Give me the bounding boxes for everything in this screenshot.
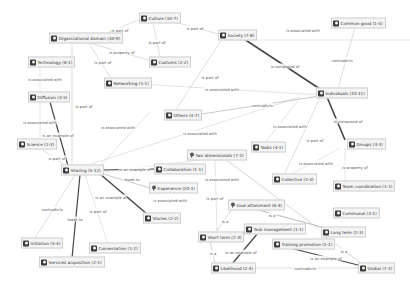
idea-icon bbox=[230, 202, 235, 208]
edge-label: is property of bbox=[342, 165, 368, 170]
node-label: Collaboration (1-1) bbox=[164, 167, 203, 172]
edge-label: leads to bbox=[67, 217, 83, 222]
node-label: Likelihood (2-4) bbox=[221, 266, 254, 271]
node-label: Technology (6-1) bbox=[38, 60, 73, 65]
node-training-promo[interactable]: Training promotion (1-1) bbox=[272, 239, 335, 250]
edge-label: contradicts bbox=[331, 58, 353, 63]
edge-label: is part of bbox=[201, 75, 219, 80]
node-culture[interactable]: Culture (10-7) bbox=[139, 13, 181, 24]
edge-label: contradicts bbox=[41, 207, 63, 212]
concept-icon bbox=[51, 35, 57, 41]
node-individuals[interactable]: Individuals (33-11) bbox=[316, 88, 368, 99]
node-label: Tasks (4-1) bbox=[261, 145, 284, 150]
node-label: Short term (2-3) bbox=[208, 235, 242, 240]
concept-icon bbox=[41, 259, 47, 265]
node-society[interactable]: Society (7-8) bbox=[218, 30, 257, 41]
concept-icon bbox=[141, 15, 147, 21]
edge-label: is property of bbox=[109, 50, 135, 55]
concept-icon bbox=[274, 176, 280, 182]
edge-label: is part of bbox=[306, 138, 324, 143]
edge-line[interactable] bbox=[238, 35, 320, 89]
edge-label: is associated with bbox=[153, 198, 188, 203]
edge-label: is associated with bbox=[28, 77, 63, 82]
node-org-domain[interactable]: Organizational domain (40-9) bbox=[49, 33, 123, 44]
node-conversation[interactable]: Conversation (1-2) bbox=[89, 243, 141, 254]
node-label: Common good (1-4) bbox=[341, 21, 383, 26]
node-science[interactable]: Science (2-3) bbox=[17, 139, 57, 150]
idea-icon bbox=[151, 185, 156, 191]
edge-label: is composed of bbox=[270, 64, 300, 69]
concept-icon bbox=[318, 90, 324, 96]
node-team-coord[interactable]: Team coordination (1-1) bbox=[333, 181, 395, 192]
concept-icon bbox=[19, 141, 25, 147]
concept-icon bbox=[30, 59, 36, 65]
concept-icon bbox=[349, 141, 355, 147]
node-common-good[interactable]: Common good (1-4) bbox=[331, 18, 386, 29]
node-others[interactable]: Others (4-7) bbox=[164, 110, 202, 121]
node-label: Diffusion (3-5) bbox=[38, 95, 68, 100]
idea-icon bbox=[189, 152, 194, 158]
node-two-dim[interactable]: Two dimensionals (7-2) bbox=[187, 150, 247, 161]
concept-icon bbox=[335, 183, 341, 189]
concept-icon bbox=[360, 265, 366, 271]
node-networking[interactable]: Networking (1-1) bbox=[104, 78, 152, 89]
node-tasks[interactable]: Tasks (4-1) bbox=[251, 142, 286, 153]
node-stories[interactable]: Stories (2-2) bbox=[143, 213, 181, 224]
node-collaboration[interactable]: Collaboration (1-1) bbox=[154, 164, 206, 175]
edge-line[interactable] bbox=[225, 159, 318, 228]
concept-icon bbox=[333, 20, 339, 26]
edge-label: is an example of bbox=[310, 256, 342, 261]
edge-label: is a bbox=[268, 213, 276, 218]
concept-icon bbox=[151, 59, 157, 65]
edge-label: is associated with bbox=[205, 177, 240, 182]
node-label: Collective (3-4) bbox=[282, 177, 314, 182]
node-label: Experience (20-1) bbox=[158, 186, 195, 191]
edge-label: is part of bbox=[148, 40, 166, 45]
node-label: Science (2-3) bbox=[27, 142, 55, 147]
node-global[interactable]: Global (7-3) bbox=[358, 263, 395, 274]
concept-graph-canvas[interactable]: is part ofis part ofis part ofis propert… bbox=[0, 0, 410, 290]
node-task-mgmt[interactable]: Task management (1-1) bbox=[244, 224, 306, 235]
concept-icon bbox=[335, 210, 341, 216]
edge-label: is associated with bbox=[183, 131, 218, 136]
edge-label: is part of bbox=[94, 60, 112, 65]
concept-icon bbox=[323, 229, 329, 235]
node-label: Customs (2-2) bbox=[159, 60, 189, 65]
edge-label: is associated with bbox=[205, 87, 240, 92]
concept-icon bbox=[23, 240, 29, 246]
node-label: Conversation (1-2) bbox=[99, 246, 138, 251]
node-diffusion[interactable]: Diffusion (3-5) bbox=[28, 92, 70, 103]
edge-label: is an example of bbox=[95, 195, 127, 200]
edge-label: contradicts bbox=[294, 266, 316, 271]
node-label: Others (4-7) bbox=[174, 113, 200, 118]
node-technology[interactable]: Technology (6-1) bbox=[28, 57, 75, 68]
edge-line[interactable] bbox=[100, 112, 150, 166]
node-collective[interactable]: Collective (3-4) bbox=[272, 174, 317, 185]
node-label: Task management (1-1) bbox=[254, 227, 304, 232]
node-goal-attain[interactable]: Goal attainment (6-4) bbox=[228, 200, 285, 211]
node-sharing[interactable]: Sharing (5-12) bbox=[61, 165, 104, 176]
concept-icon bbox=[220, 32, 226, 38]
node-long-term[interactable]: Long term (2-3) bbox=[321, 227, 366, 238]
node-communal[interactable]: Communal (3-1) bbox=[333, 208, 380, 219]
node-label: Society (7-8) bbox=[228, 33, 255, 38]
edge-label: is associated with bbox=[101, 125, 136, 130]
concept-icon bbox=[274, 241, 280, 247]
edge-label: is part of bbox=[75, 104, 93, 109]
node-label: Individuals (33-11) bbox=[326, 91, 365, 96]
node-label: Communal (3-1) bbox=[343, 211, 377, 216]
node-initiation[interactable]: Initiation (5-4) bbox=[21, 238, 63, 249]
node-services-acq[interactable]: Services acquisition (2-1) bbox=[39, 257, 105, 268]
node-experience[interactable]: Experience (20-1) bbox=[149, 183, 198, 194]
edge-label: is a bbox=[340, 249, 348, 254]
node-customs[interactable]: Customs (2-2) bbox=[149, 57, 191, 68]
concept-icon bbox=[213, 265, 219, 271]
node-short-term[interactable]: Short term (2-3) bbox=[198, 232, 244, 243]
node-label: Global (7-3) bbox=[368, 266, 393, 271]
node-groups[interactable]: Groups (3-3) bbox=[347, 139, 386, 150]
edge-label: is a bbox=[221, 219, 229, 224]
node-likelihood[interactable]: Likelihood (2-4) bbox=[211, 263, 256, 274]
concept-icon bbox=[30, 94, 36, 100]
node-label: Groups (3-3) bbox=[357, 142, 383, 147]
edge-label: is composed of bbox=[333, 119, 363, 124]
